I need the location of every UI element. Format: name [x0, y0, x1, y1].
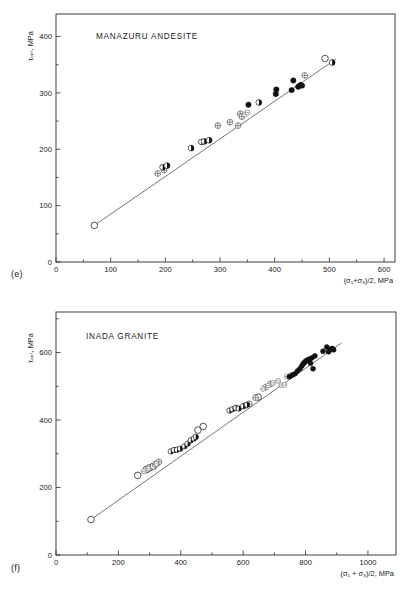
- fit-line: [91, 343, 341, 520]
- x-axis-title: (σ₁+σ₃)/2, MPa: [344, 276, 394, 285]
- marker-solid-circle: [246, 102, 251, 107]
- data-point: [164, 163, 170, 169]
- data-point: [244, 402, 249, 407]
- marker-open-circle: [88, 516, 95, 523]
- data-point: [266, 383, 271, 388]
- series-cross-circle: [152, 381, 273, 467]
- data-point: [270, 380, 275, 385]
- data-point: [282, 383, 287, 388]
- x-axis-tick-label: 300: [214, 265, 227, 274]
- y-axis-title: τₒₑₜ, MPa: [26, 30, 35, 61]
- marker-solid-circle: [308, 361, 313, 366]
- data-point: [155, 171, 161, 177]
- plot-title: MANAZURU ANDESITE: [96, 32, 198, 41]
- data-point: [134, 472, 141, 479]
- series-gray-circle: [242, 110, 250, 117]
- series-gray-circle: [141, 373, 293, 474]
- marker-solid-circle: [311, 366, 316, 371]
- data-point: [289, 87, 294, 92]
- data-point: [146, 466, 151, 471]
- series-cross-circle: [155, 73, 308, 177]
- data-point: [321, 349, 326, 354]
- panel-label-f: (f): [11, 563, 20, 573]
- data-point: [274, 87, 279, 92]
- data-point: [188, 145, 194, 151]
- marker-open-circle: [200, 423, 207, 430]
- marker-solid-circle: [289, 87, 294, 92]
- marker-solid-circle: [299, 83, 304, 88]
- plot-frame: [56, 14, 395, 262]
- data-point: [329, 60, 335, 66]
- y-axis-tick-label: 200: [39, 145, 52, 154]
- marker-open-circle: [91, 222, 98, 229]
- x-axis-tick-label: 500: [323, 265, 336, 274]
- data-point: [245, 110, 250, 115]
- y-axis-tick-label: 400: [39, 416, 52, 425]
- data-point: [302, 73, 308, 79]
- x-axis-tick-label: 1000: [359, 558, 376, 567]
- x-axis-tick-label: 600: [237, 558, 250, 567]
- data-point: [322, 55, 329, 62]
- data-point: [261, 387, 266, 392]
- marker-solid-circle: [274, 87, 279, 92]
- data-point: [235, 123, 241, 129]
- data-point: [91, 222, 98, 229]
- x-axis-tick-label: 200: [112, 558, 125, 567]
- data-point: [227, 119, 233, 125]
- plot-frame: [56, 312, 396, 555]
- x-axis-tick-label: 0: [54, 265, 58, 274]
- chart-manazuru-andesite: 01002003004005006000100200300400τₒₑₜ, MP…: [0, 0, 413, 298]
- x-axis-tick-label: 600: [378, 265, 391, 274]
- x-axis-tick-label: 200: [159, 265, 172, 274]
- data-point: [154, 461, 159, 466]
- y-axis-tick-label: 200: [39, 483, 52, 492]
- data-point: [256, 100, 262, 106]
- y-axis-tick-label: 0: [48, 258, 52, 267]
- y-axis-tick-label: 100: [39, 201, 52, 210]
- plot-title: INADA GRANITE: [86, 332, 159, 341]
- x-axis-tick-label: 400: [268, 265, 281, 274]
- data-point: [253, 395, 259, 401]
- chart-inada-granite: 020040060080010000200400600τₒₑₜ, MPa(σ₁ …: [0, 296, 413, 594]
- series-half-circle: [168, 402, 250, 454]
- marker-open-circle: [322, 55, 329, 62]
- data-point: [308, 361, 313, 366]
- data-point: [215, 123, 221, 129]
- marker-solid-circle: [321, 349, 326, 354]
- y-axis-tick-label: 0: [48, 551, 52, 560]
- x-axis-tick-label: 800: [299, 558, 312, 567]
- x-axis-title: (σ₁ + σ₃)/2, MPa: [341, 569, 395, 578]
- panel-manazuru-andesite: 01002003004005006000100200300400τₒₑₜ, MP…: [0, 0, 413, 298]
- y-axis-title: τₒₑₜ, MPa: [26, 332, 35, 363]
- y-axis-tick-label: 300: [39, 89, 52, 98]
- marker-open-circle: [134, 472, 141, 479]
- data-point: [276, 378, 281, 383]
- data-point: [291, 78, 296, 83]
- marker-solid-circle: [291, 78, 296, 83]
- panel-label-e: (e): [11, 269, 23, 279]
- data-point: [193, 434, 198, 439]
- marker-solid-circle: [331, 347, 336, 352]
- x-axis-tick-label: 400: [174, 558, 187, 567]
- y-axis-tick-label: 600: [39, 348, 52, 357]
- x-axis-tick-label: 100: [104, 265, 117, 274]
- series-solid-circle: [246, 78, 305, 108]
- data-point: [299, 83, 304, 88]
- data-point: [141, 469, 146, 474]
- series-solid-circle: [287, 345, 336, 380]
- panel-inada-granite: 020040060080010000200400600τₒₑₜ, MPa(σ₁ …: [0, 296, 413, 594]
- x-axis-tick-label: 0: [54, 558, 58, 567]
- y-axis-tick-label: 400: [39, 32, 52, 41]
- data-point: [246, 102, 251, 107]
- data-point: [331, 347, 336, 352]
- marker-solid-circle: [312, 353, 317, 358]
- data-point: [311, 366, 316, 371]
- data-point: [206, 137, 212, 143]
- data-point: [88, 516, 95, 523]
- data-point: [200, 423, 207, 430]
- data-point: [312, 353, 317, 358]
